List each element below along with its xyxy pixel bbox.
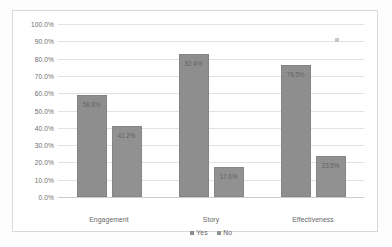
- bar-value-label: 41.2%: [118, 132, 136, 139]
- bar-value-label: 23.5%: [322, 162, 340, 169]
- gridline: [58, 41, 364, 42]
- legend-label: No: [223, 229, 232, 236]
- category-label-story: Story: [203, 216, 219, 223]
- gridline: [58, 76, 364, 77]
- category-label-engagement: Engagement: [89, 216, 129, 223]
- y-axis-tick-label: 0.0%: [39, 194, 54, 201]
- chart-page: 100.0%90.0%80.0%70.0%60.0%50.0%40.0%30.0…: [0, 0, 392, 247]
- legend-item-no[interactable]: No: [217, 229, 232, 236]
- legend-swatch-icon: [217, 231, 221, 235]
- y-axis-tick-label: 20.0%: [35, 159, 54, 166]
- y-axis-tick-label: 40.0%: [35, 124, 54, 131]
- y-axis-tick-label: 80.0%: [35, 55, 54, 62]
- bar-effectiveness-yes[interactable]: 76.5%: [281, 65, 311, 197]
- legend-label: Yes: [196, 229, 207, 236]
- gridline: [58, 24, 364, 25]
- chart-legend: YesNo: [58, 229, 364, 236]
- category-label-effectiveness: Effectiveness: [292, 216, 334, 223]
- bar-engagement-yes[interactable]: 58.8%: [77, 95, 107, 197]
- chart-frame: 100.0%90.0%80.0%70.0%60.0%50.0%40.0%30.0…: [12, 10, 378, 232]
- legend-swatch-icon: [190, 231, 194, 235]
- y-axis-tick-label: 10.0%: [35, 176, 54, 183]
- plot-area: 100.0%90.0%80.0%70.0%60.0%50.0%40.0%30.0…: [58, 24, 364, 197]
- bar-story-yes[interactable]: 82.4%: [179, 54, 209, 197]
- y-axis-tick-label: 70.0%: [35, 72, 54, 79]
- y-axis-tick-label: 30.0%: [35, 142, 54, 149]
- scan-artifact-mark: [335, 38, 339, 42]
- gridline: [58, 59, 364, 60]
- bar-engagement-no[interactable]: 41.2%: [112, 126, 142, 197]
- legend-item-yes[interactable]: Yes: [190, 229, 208, 236]
- y-axis-tick-label: 50.0%: [35, 107, 54, 114]
- bar-value-label: 58.8%: [83, 101, 101, 108]
- x-axis-line: [58, 197, 364, 198]
- bar-value-label: 76.5%: [287, 71, 305, 78]
- y-axis-tick-label: 100.0%: [31, 21, 54, 28]
- bar-effectiveness-no[interactable]: 23.5%: [316, 156, 346, 197]
- bar-value-label: 17.6%: [220, 173, 238, 180]
- y-axis-tick-label: 90.0%: [35, 38, 54, 45]
- y-axis-tick-label: 60.0%: [35, 90, 54, 97]
- bar-value-label: 82.4%: [185, 60, 203, 67]
- bar-story-no[interactable]: 17.6%: [214, 167, 244, 197]
- gridline: [58, 93, 364, 94]
